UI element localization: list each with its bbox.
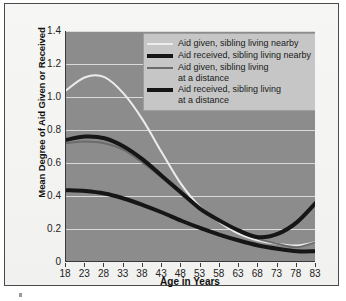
legend-label: Aid given, sibling living at a distance: [178, 62, 269, 83]
x-tick-mark: [296, 263, 297, 267]
x-tick-mark: [103, 263, 104, 267]
plot-area: Aid given, sibling living nearby Aid rec…: [65, 31, 315, 262]
x-tick-mark: [65, 263, 66, 267]
x-tick-mark: [180, 263, 181, 267]
x-tick-mark: [277, 263, 278, 267]
x-tick-mark: [84, 263, 85, 267]
legend-swatch-aid-received-distance: [147, 84, 173, 95]
x-axis-label: Age in Years: [65, 276, 315, 287]
legend-item: Aid received, sibling living at a distan…: [147, 84, 315, 105]
legend-label: Aid received, sibling living nearby: [178, 50, 311, 61]
y-tick-label: 0.2: [35, 224, 61, 234]
figure-frame: 00.20.40.60.81.01.21.4 Mean Degree of Ai…: [4, 3, 339, 286]
y-tick-label: 0: [35, 257, 61, 267]
legend-swatch-aid-given-distance: [147, 62, 173, 73]
legend-swatch-aid-received-nearby: [147, 50, 173, 61]
legend-item: Aid received, sibling living nearby: [147, 50, 315, 61]
y-axis-label: Mean Degree of Aid Given or Received: [36, 3, 47, 223]
scan-artifact-mark: [19, 293, 22, 297]
x-tick-mark: [257, 263, 258, 267]
legend-item: Aid given, sibling living at a distance: [147, 62, 315, 83]
chart-legend: Aid given, sibling living nearby Aid rec…: [143, 33, 315, 111]
legend-item: Aid given, sibling living nearby: [147, 38, 315, 49]
x-tick-mark: [219, 263, 220, 267]
x-tick-mark: [142, 263, 143, 267]
x-tick-mark: [200, 263, 201, 267]
x-tick-mark: [123, 263, 124, 267]
legend-swatch-aid-given-nearby: [147, 38, 173, 49]
legend-label: Aid received, sibling living at a distan…: [178, 84, 281, 105]
chart-figure: 00.20.40.60.81.01.21.4 Mean Degree of Ai…: [0, 0, 346, 301]
x-tick-mark: [315, 263, 316, 267]
legend-label: Aid given, sibling living nearby: [178, 38, 299, 49]
x-tick-mark: [238, 263, 239, 267]
x-tick-mark: [161, 263, 162, 267]
